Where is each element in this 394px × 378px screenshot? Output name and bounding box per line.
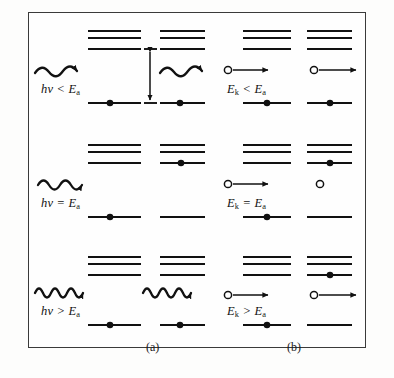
photon-wave-incoming [38, 181, 82, 190]
free-electron-icon [316, 180, 323, 187]
row-less-energy-gap-arrow [144, 49, 157, 103]
row-less-free-electron-outgoing [310, 66, 356, 73]
panel-caption-b: (b) [287, 340, 301, 355]
free-electron-icon [224, 180, 231, 187]
row-equal-free-electron-stopped [316, 180, 323, 187]
row-equal-panel-a-atom-before [88, 145, 141, 220]
electron-dot [264, 214, 271, 221]
electron-dot [264, 100, 271, 107]
panel-caption-a: (a) [146, 340, 159, 355]
electron-dot-excited [178, 160, 185, 167]
figure-root: hν < Ea Ek < Ea hν = Ea Ek = Ea hν > Ea … [0, 0, 394, 378]
row-equal-panel-b-label: Ek = Ea [227, 196, 266, 211]
diagram-canvas [0, 0, 394, 378]
row-less-panel-b-label: Ek < Ea [227, 82, 266, 97]
row-equal-panel-a-atom-after [160, 145, 205, 217]
row-greater-panel-b-label: Ek > Ea [227, 304, 266, 319]
row-equal-panel-b-atom-after [307, 145, 352, 217]
row-greater-free-electron-incoming [224, 291, 268, 298]
electron-dot-excited [327, 160, 334, 167]
row-less-panel-a-atom-before [88, 31, 141, 106]
electron-dot [177, 100, 184, 107]
electron-dot [107, 100, 114, 107]
free-electron-icon [310, 291, 317, 298]
row-equal-free-electron-incoming [224, 180, 268, 187]
free-electron-icon [310, 66, 317, 73]
electron-dot [264, 322, 271, 329]
electron-dot [107, 214, 114, 221]
row-less-free-electron-incoming [224, 66, 268, 73]
row-greater-free-electron-outgoing [310, 291, 356, 298]
photon-wave-outgoing [143, 289, 191, 298]
photon-wave-incoming [35, 67, 77, 77]
row-greater-panel-a-label: hν > Ea [41, 304, 80, 319]
photon-wave-outgoing [160, 67, 202, 77]
photon-wave-incoming [35, 289, 83, 298]
electron-dot [177, 322, 184, 329]
free-electron-icon [224, 66, 231, 73]
electron-dot [107, 322, 114, 329]
electron-dot [327, 100, 334, 107]
electron-dot-excited [327, 272, 334, 279]
row-equal-panel-a-label: hν = Ea [41, 196, 80, 211]
row-less-panel-a-label: hν < Ea [41, 82, 80, 97]
row-greater-panel-a-atom-before [88, 257, 141, 328]
free-electron-icon [224, 291, 231, 298]
